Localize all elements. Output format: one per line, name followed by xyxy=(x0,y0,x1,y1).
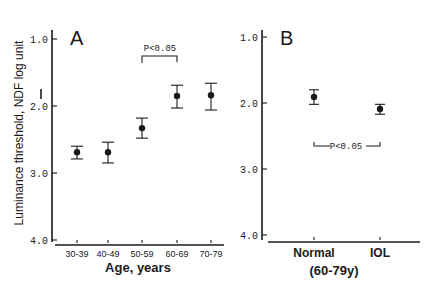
panel-a-x-tick-label: 50-59 xyxy=(130,249,153,259)
panel-b: B 1.02.03.04.0 NormalIOL P<0.05 (60-79y) xyxy=(240,27,420,278)
figure: Luminance threshold, NDF log unit A 1.02… xyxy=(0,0,431,292)
panel-a-data-point xyxy=(136,118,148,138)
panel-b-x-axis-subtitle: (60-79y) xyxy=(309,263,358,278)
bracket-line-left xyxy=(314,142,330,146)
mean-marker xyxy=(174,93,180,99)
panel-b-x-tick-label: IOL xyxy=(370,246,390,260)
panel-b-data-point xyxy=(375,104,385,114)
panel-a-x-tick-label: 70-79 xyxy=(199,249,222,259)
panel-b-y-tick-label: 4.0 xyxy=(240,231,258,242)
panel-a-data-point xyxy=(102,142,114,163)
panel-a-significance-bracket: P<0.05 xyxy=(142,44,177,63)
y-axis-title: Luminance threshold, NDF log unit xyxy=(12,40,26,225)
panel-a-letter: A xyxy=(70,27,84,49)
panel-a-data-point xyxy=(71,146,83,159)
panel-a-pvalue: P<0.05 xyxy=(144,44,176,54)
panel-b-data-points xyxy=(309,90,385,114)
mean-marker xyxy=(377,106,383,112)
panel-a-y-tick-label: 4.0 xyxy=(30,236,48,247)
panel-b-pvalue: P<0.05 xyxy=(330,142,362,152)
panel-a-x-ticks: 30-3940-4950-5960-6970-79 xyxy=(65,240,222,259)
mean-marker xyxy=(208,92,214,98)
panel-a-x-axis-title: Age, years xyxy=(105,260,171,275)
panel-b-y-tick-label: 1.0 xyxy=(240,33,258,44)
panel-b-significance-bracket: P<0.05 xyxy=(314,142,380,152)
panel-b-y-tick-label: 2.0 xyxy=(240,99,258,110)
panel-b-data-point xyxy=(309,90,319,105)
panel-a-data-points xyxy=(71,83,217,163)
panel-a-y-tick-label: 2.0 xyxy=(30,102,48,113)
bracket-line xyxy=(142,56,177,63)
panel-a-x-tick-label: 40-49 xyxy=(96,249,119,259)
panel-a-x-tick-label: 60-69 xyxy=(165,249,188,259)
panel-a-data-point xyxy=(205,83,217,110)
panel-b-letter: B xyxy=(280,27,293,49)
mean-marker xyxy=(311,94,317,100)
panel-a-data-point xyxy=(171,85,183,108)
mean-marker xyxy=(139,125,145,131)
mean-marker xyxy=(105,149,111,155)
panel-a-y-tick-label: 1.0 xyxy=(30,35,48,46)
panel-b-y-ticks: 1.02.03.04.0 xyxy=(240,33,267,242)
panel-b-x-ticks: NormalIOL xyxy=(293,237,390,260)
panel-b-y-tick-label: 3.0 xyxy=(240,165,258,176)
panel-b-x-tick-label: Normal xyxy=(293,246,334,260)
bracket-line-right xyxy=(366,142,380,146)
panel-a-y-ticks: 1.02.03.04.0 xyxy=(30,35,57,247)
panel-a-y-tick-label: 3.0 xyxy=(30,169,48,180)
mean-marker xyxy=(74,149,80,155)
panel-a-x-tick-label: 30-39 xyxy=(65,249,88,259)
panel-a: A 1.02.03.04.0 30-3940-4950-5960-6970-79… xyxy=(30,27,224,275)
